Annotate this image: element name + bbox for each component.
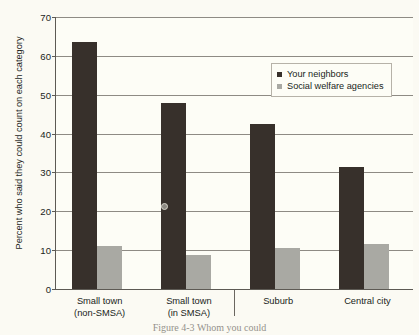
legend-label: Your neighbors xyxy=(287,69,348,79)
x-axis-category-line: Small town xyxy=(55,295,144,307)
gridline xyxy=(56,134,413,135)
y-axis-tick xyxy=(52,95,56,96)
light-square-icon xyxy=(277,84,282,89)
dark-square-icon xyxy=(277,72,282,77)
bar xyxy=(339,167,364,289)
figure-caption: Figure 4-3 Whom you could xyxy=(0,322,419,333)
x-axis-category-label: Central city xyxy=(323,295,412,307)
y-axis-tick xyxy=(52,250,56,251)
y-axis-title: Percent who said they could count on eac… xyxy=(14,0,28,293)
bar xyxy=(275,248,300,289)
y-axis-tick xyxy=(52,289,56,290)
x-axis-category-line: Suburb xyxy=(234,295,323,307)
y-axis-tick-label: 70 xyxy=(40,12,51,23)
x-axis-category-line: Central city xyxy=(323,295,412,307)
y-axis-tick-label: 50 xyxy=(40,89,51,100)
bar-chart-figure: Percent who said they could count on eac… xyxy=(0,0,419,335)
legend-item-social-welfare-agencies: Social welfare agencies xyxy=(277,80,384,92)
x-axis-category-line: (in SMSA) xyxy=(144,307,233,319)
y-axis-tick-label: 20 xyxy=(40,206,51,217)
plot-area: 010203040506070 xyxy=(55,17,413,290)
bar xyxy=(250,124,275,289)
legend-item-your-neighbors: Your neighbors xyxy=(277,68,384,80)
x-axis-category-line: Small town xyxy=(144,295,233,307)
bar xyxy=(186,255,211,289)
gridline xyxy=(56,17,413,18)
bar xyxy=(364,244,389,289)
y-axis-tick-label: 30 xyxy=(40,167,51,178)
scan-artifact-mark xyxy=(161,203,168,210)
x-axis-category-label: Small town(in SMSA) xyxy=(144,295,233,320)
bar xyxy=(72,42,97,289)
bar xyxy=(161,103,186,289)
y-axis-tick xyxy=(52,211,56,212)
chart-legend: Your neighbors Social welfare agencies xyxy=(271,63,392,97)
y-axis-tick xyxy=(52,17,56,18)
y-axis-tick xyxy=(52,134,56,135)
y-axis-tick-label: 40 xyxy=(40,128,51,139)
x-axis-category-label: Suburb xyxy=(234,295,323,307)
x-axis-category-line: (non-SMSA) xyxy=(55,307,144,319)
y-axis-tick xyxy=(52,56,56,57)
y-axis-tick-label: 10 xyxy=(40,245,51,256)
axis-group-separator xyxy=(234,290,235,316)
y-axis-tick xyxy=(52,172,56,173)
y-axis-tick-label: 60 xyxy=(40,50,51,61)
x-axis-category-label: Small town(non-SMSA) xyxy=(55,295,144,320)
gridline xyxy=(56,56,413,57)
bar xyxy=(97,246,122,289)
y-axis-tick-label: 0 xyxy=(46,284,51,295)
legend-label: Social welfare agencies xyxy=(287,81,384,91)
